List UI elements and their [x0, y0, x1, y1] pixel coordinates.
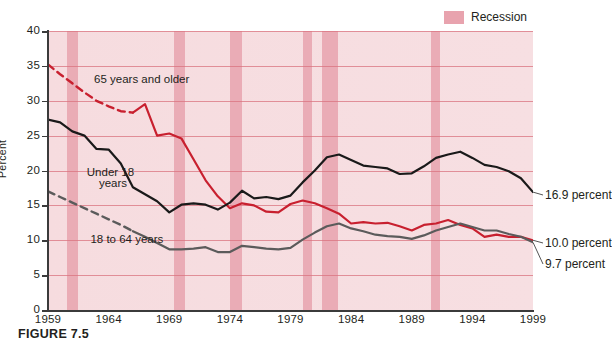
x-tick-label: 1984	[338, 313, 364, 325]
x-tick-label: 1959	[35, 313, 61, 325]
y-tick-mark	[42, 171, 48, 173]
y-tick-mark	[42, 136, 48, 138]
series-annotation: 65 years and older	[94, 73, 189, 86]
series-end-label: 10.0 percent	[545, 236, 612, 250]
x-tick-label: 1969	[156, 313, 182, 325]
y-tick-label: 15	[2, 198, 40, 210]
y-tick-mark	[42, 205, 48, 207]
recession-swatch-icon	[444, 11, 464, 24]
series-annotation: 18 to 64 years	[90, 233, 163, 246]
leader-line	[533, 242, 543, 264]
x-tick-label: 1999	[520, 313, 546, 325]
series-end-label: 16.9 percent	[545, 188, 612, 202]
x-tick-label: 1979	[277, 313, 303, 325]
y-tick-mark	[42, 66, 48, 68]
leader-line	[533, 192, 543, 195]
y-tick-mark	[42, 310, 48, 312]
series-end-label: 9.7 percent	[545, 257, 605, 271]
y-tick-mark	[42, 101, 48, 103]
series-line	[133, 104, 533, 240]
x-tick-label: 1974	[217, 313, 243, 325]
series-annotation: years	[99, 177, 127, 190]
y-tick-mark	[42, 275, 48, 277]
y-tick-label: 10	[2, 233, 40, 245]
series-line	[48, 191, 133, 231]
y-tick-label: 30	[2, 94, 40, 106]
y-axis-ticks: 0510152025303540	[0, 0, 40, 351]
y-tick-mark	[42, 240, 48, 242]
leader-line	[533, 240, 543, 243]
x-tick-label: 1989	[399, 313, 425, 325]
series-line	[133, 224, 533, 253]
x-axis-line	[47, 310, 534, 312]
y-tick-label: 25	[2, 129, 40, 141]
y-tick-label: 35	[2, 59, 40, 71]
y-tick-label: 40	[2, 24, 40, 36]
x-tick-label: 1964	[95, 313, 121, 325]
legend: Recession	[444, 10, 527, 24]
x-tick-label: 1994	[459, 313, 485, 325]
legend-label: Recession	[471, 10, 527, 24]
y-tick-label: 20	[2, 164, 40, 176]
plot-area: 65 years and olderUnder 18years18 to 64 …	[48, 31, 533, 310]
series-line	[48, 65, 133, 113]
y-tick-label: 5	[2, 268, 40, 280]
y-tick-mark	[42, 31, 48, 33]
figure-caption: FIGURE 7.5	[18, 327, 89, 341]
